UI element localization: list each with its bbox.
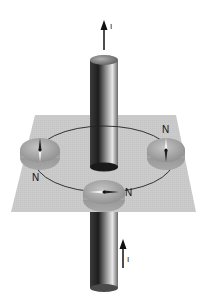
current-arrow-top bbox=[101, 20, 108, 50]
current-label-bottom: I bbox=[127, 255, 129, 264]
wire-lower bbox=[90, 212, 118, 292]
north-label-left: N bbox=[32, 172, 39, 183]
compass-right bbox=[147, 138, 185, 170]
current-arrow-bottom bbox=[120, 239, 127, 268]
wire-through-plane bbox=[90, 115, 118, 172]
wire-field-diagram: I N N bbox=[0, 0, 204, 302]
north-label-front: N bbox=[125, 187, 132, 198]
north-label-right: N bbox=[162, 124, 169, 135]
current-label-top: I bbox=[110, 22, 112, 31]
compass-left bbox=[20, 138, 60, 170]
compass-front bbox=[83, 180, 125, 212]
